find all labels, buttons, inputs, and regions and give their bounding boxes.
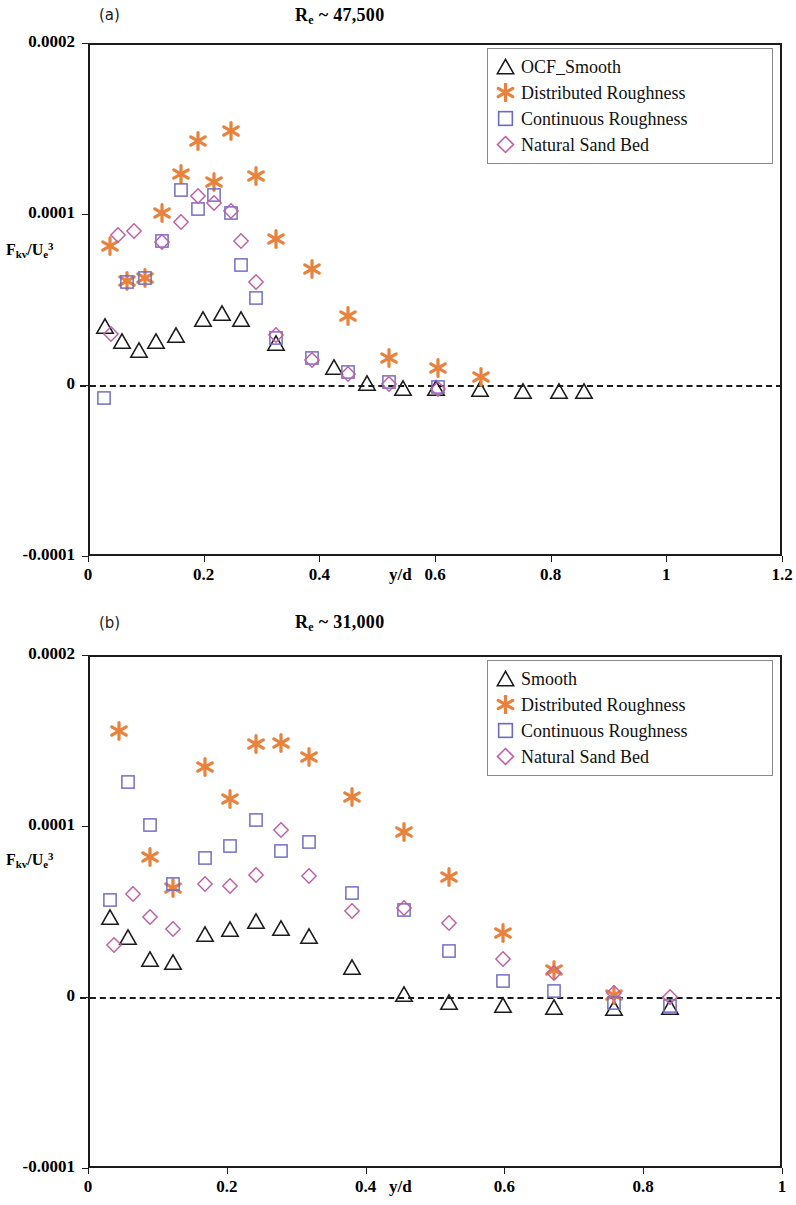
diamond-marker-icon: [495, 134, 517, 156]
x-tick-label: 0.8: [603, 1177, 683, 1197]
x-tick-label: 0.4: [279, 565, 359, 585]
x-tick-mark: [504, 1168, 505, 1174]
y-tick-label: 0: [0, 374, 75, 394]
x-tick-label: 1.2: [742, 565, 796, 585]
legend-item-label: Continuous Roughness: [521, 110, 688, 128]
x-tick-label: 0.2: [187, 1177, 267, 1197]
legend-item-asterisk: Distributed Roughness: [495, 80, 762, 106]
legend-item-square: Continuous Roughness: [495, 106, 762, 132]
x-tick-mark: [782, 1168, 783, 1174]
asterisk-marker-icon: [495, 82, 517, 104]
y-tick-label: 0.0002: [0, 644, 75, 664]
x-tick-mark: [227, 1168, 228, 1174]
x-tick-mark: [204, 556, 205, 562]
y-tick-mark: [82, 214, 88, 215]
triangle-marker-icon: [495, 668, 517, 690]
x-tick-mark: [551, 556, 552, 562]
legend-item-diamond: Natural Sand Bed: [495, 744, 762, 770]
x-tick-label: 0: [48, 1177, 128, 1197]
triangle-marker-icon: [495, 56, 517, 78]
legend-item-label: Smooth: [521, 670, 577, 688]
figure-container: (a) Re ~ 47,500 Fkv/Ue3 0.00020.00010-0.…: [0, 0, 796, 1205]
x-tick-label: 0: [48, 565, 128, 585]
chart-panel-a: (a) Re ~ 47,500 Fkv/Ue3 0.00020.00010-0.…: [0, 0, 796, 600]
x-tick-mark: [366, 1168, 367, 1174]
x-axis-title-a: y/d: [389, 565, 412, 585]
legend-item-label: Continuous Roughness: [521, 722, 688, 740]
x-tick-mark: [319, 556, 320, 562]
y-tick-label: -0.0001: [0, 1157, 75, 1177]
y-tick-label: 0: [0, 986, 75, 1006]
x-tick-mark: [666, 556, 667, 562]
legend-item-triangle: Smooth: [495, 666, 762, 692]
x-tick-mark: [643, 1168, 644, 1174]
x-tick-label: 1: [742, 1177, 796, 1197]
x-tick-label: 0.8: [511, 565, 591, 585]
chart-panel-b: (b) Re ~ 31,000 Fkv/Ue3 0.00020.00010-0.…: [0, 600, 796, 1205]
legend-item-triangle: OCF_Smooth: [495, 54, 762, 80]
x-tick-mark: [782, 556, 783, 562]
x-axis-title-b: y/d: [389, 1177, 412, 1197]
y-tick-label: 0.0001: [0, 815, 75, 835]
diamond-marker-icon: [495, 746, 517, 768]
x-tick-label: 1: [626, 565, 706, 585]
y-tick-label: 0.0002: [0, 32, 75, 52]
square-marker-icon: [495, 108, 517, 130]
square-marker-icon: [495, 720, 517, 742]
legend-b: SmoothDistributed RoughnessContinuous Ro…: [487, 660, 773, 776]
x-tick-mark: [435, 556, 436, 562]
y-tick-label: 0.0001: [0, 203, 75, 223]
legend-a: OCF_SmoothDistributed RoughnessContinuou…: [487, 48, 773, 164]
y-tick-mark: [82, 655, 88, 656]
legend-item-asterisk: Distributed Roughness: [495, 692, 762, 718]
asterisk-marker-icon: [495, 694, 517, 716]
legend-item-label: Distributed Roughness: [521, 696, 686, 714]
legend-item-diamond: Natural Sand Bed: [495, 132, 762, 158]
y-tick-mark: [82, 43, 88, 44]
x-tick-mark: [88, 556, 89, 562]
legend-item-label: OCF_Smooth: [521, 58, 621, 76]
x-tick-label: 0.2: [164, 565, 244, 585]
legend-item-label: Natural Sand Bed: [521, 748, 649, 766]
legend-item-label: Distributed Roughness: [521, 84, 686, 102]
x-tick-mark: [88, 1168, 89, 1174]
legend-item-square: Continuous Roughness: [495, 718, 762, 744]
legend-item-label: Natural Sand Bed: [521, 136, 649, 154]
x-tick-label: 0.6: [464, 1177, 544, 1197]
y-tick-label: -0.0001: [0, 545, 75, 565]
y-tick-mark: [82, 826, 88, 827]
